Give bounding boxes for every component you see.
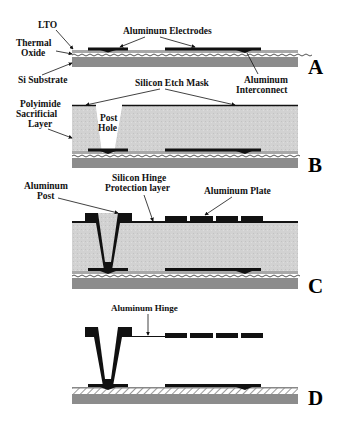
- label-si-substrate: Si Substrate: [18, 75, 67, 85]
- step-c: C: [72, 213, 323, 298]
- label-hinge-protection: Silicon Hinge: [112, 173, 166, 183]
- si-substrate-b: [72, 158, 298, 168]
- label-lto: LTO: [38, 20, 57, 30]
- label-post-hole: Post: [100, 113, 118, 123]
- label-polyimide: Polyimide: [20, 99, 61, 109]
- label-aluminum-plate: Aluminum Plate: [204, 186, 271, 196]
- step-label-b: B: [308, 153, 322, 177]
- label-aluminum-interconnect: Aluminum: [244, 75, 288, 85]
- si-substrate-c: [72, 278, 298, 289]
- step-d: D: [72, 327, 323, 410]
- label-silicon-etch-mask: Silicon Etch Mask: [135, 78, 210, 88]
- svg-text:Layer: Layer: [28, 119, 53, 129]
- aluminum-plate-c4: [241, 216, 263, 222]
- svg-text:Protection layer: Protection layer: [105, 183, 171, 193]
- svg-text:Oxide: Oxide: [21, 48, 45, 58]
- step-label-d: D: [308, 386, 323, 410]
- svg-text:Post: Post: [37, 191, 55, 201]
- aluminum-plate-c3: [216, 216, 238, 222]
- label-aluminum-hinge: Aluminum Hinge: [111, 303, 178, 313]
- process-diagram: A LTO Thermal Oxide Si Substrate Aluminu…: [0, 0, 339, 425]
- aluminum-plate-d4: [241, 333, 263, 338]
- label-aluminum-post: Aluminum: [24, 181, 68, 191]
- step-label-c: C: [308, 274, 323, 298]
- si-substrate-a: [72, 57, 298, 67]
- si-substrate-d: [72, 394, 298, 404]
- label-aluminum-electrodes: Aluminum Electrodes: [123, 26, 212, 36]
- svg-text:Sacrificial: Sacrificial: [16, 109, 58, 119]
- aluminum-plate-d1: [165, 333, 187, 338]
- aluminum-plate-d2: [190, 333, 213, 338]
- aluminum-plate-d3: [216, 333, 238, 338]
- svg-text:Hole: Hole: [98, 123, 117, 133]
- svg-text:Interconnect: Interconnect: [236, 85, 288, 95]
- aluminum-plate-c2: [190, 216, 213, 222]
- label-thermal-oxide: Thermal: [16, 38, 52, 48]
- step-label-a: A: [308, 55, 324, 79]
- aluminum-plate-c1: [165, 216, 187, 222]
